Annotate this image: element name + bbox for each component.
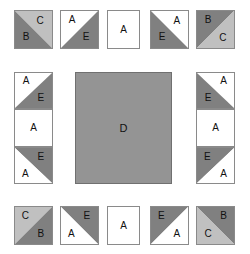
center-square-unit: D: [75, 72, 172, 184]
bottom-row-unit-2: EA: [60, 206, 99, 245]
quilt-block-diagram: CBAEAAEBCAEAEAAEAEACBEAAEABCD: [0, 0, 250, 254]
top-row-unit-2: AE: [60, 10, 99, 49]
bottom-right-corner-unit: BC: [196, 206, 235, 245]
patch-label: A: [120, 221, 127, 231]
right-column-unit-middle-plain: A: [196, 109, 235, 147]
top-left-corner-unit: CB: [14, 10, 53, 49]
left-column-unit-top: AE: [14, 72, 53, 109]
top-row-unit-4: AE: [150, 10, 189, 49]
top-right-corner-unit: BC: [196, 10, 235, 49]
bottom-row-unit-4: EA: [150, 206, 189, 245]
left-column-unit-bottom: EA: [14, 147, 53, 184]
left-column-unit-middle-plain: A: [14, 109, 53, 147]
bottom-left-corner-unit: CB: [14, 206, 53, 245]
right-column-unit-top: AE: [196, 72, 235, 109]
bottom-row-unit-3-plain: A: [107, 206, 140, 245]
patch-label: A: [212, 123, 219, 133]
right-column-unit-bottom: EA: [196, 147, 235, 184]
patch-label: A: [120, 25, 127, 35]
center-square-label: D: [120, 123, 128, 134]
patch-label: A: [30, 123, 37, 133]
top-row-unit-3-plain: A: [107, 10, 140, 49]
